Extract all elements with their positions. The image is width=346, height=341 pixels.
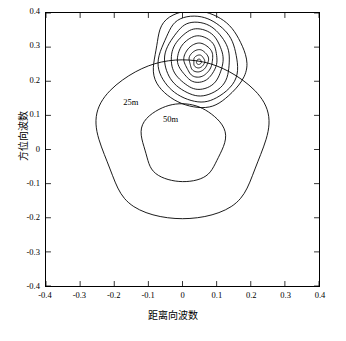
contour-line <box>177 36 217 83</box>
contour-label-50m: 50m <box>162 114 179 124</box>
x-axis-label: 距离向波数 <box>0 307 346 322</box>
contour-line <box>96 60 269 219</box>
contour-line <box>171 29 223 90</box>
contour-plot-svg <box>46 13 319 286</box>
y-axis-label: 方位向波数 <box>15 76 30 196</box>
figure: 25m 50m -0.4 -0.3 -0.2 -0.1 0 0.1 0.2 0.… <box>0 0 346 341</box>
y-tick-label: 0.4 <box>6 6 40 16</box>
contour-label-25m: 25m <box>122 97 139 107</box>
contour-line <box>141 104 226 182</box>
y-tick-label: -0.4 <box>6 281 40 291</box>
y-tick-label: 0.3 <box>6 40 40 50</box>
contour-line <box>153 13 247 108</box>
y-tick-label: -0.3 <box>6 247 40 257</box>
contour-line <box>164 22 229 96</box>
x-tick-label: 0.4 <box>300 290 340 300</box>
plot-area <box>45 12 320 287</box>
y-tick-label: -0.2 <box>6 212 40 222</box>
